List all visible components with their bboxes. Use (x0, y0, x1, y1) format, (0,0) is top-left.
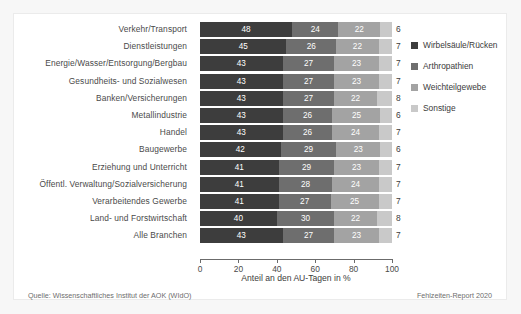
bar-segment: 41 (200, 177, 279, 192)
category-label: Baugewerbe (14, 142, 187, 157)
bar-segment: 45 (200, 39, 286, 54)
legend-label: Wirbelsäule/Rücken (423, 40, 497, 50)
bar-segment (379, 74, 392, 89)
segment-value-outside: 7 (396, 160, 401, 175)
segment-value-outside: 7 (396, 39, 401, 54)
segment-value-outside: 7 (396, 194, 401, 209)
segment-value-outside: 8 (396, 91, 401, 106)
bar-segment (379, 125, 392, 140)
legend-swatch-icon (411, 63, 418, 70)
bar-segment (380, 142, 392, 157)
bar-segment: 43 (200, 228, 283, 243)
bar-segment (379, 177, 392, 192)
footer-report: Fehlzeiten-Report 2020 (417, 291, 492, 300)
bar-segment (379, 56, 392, 71)
bar-segment: 22 (336, 39, 378, 54)
stacked-bar: 452622 (200, 39, 392, 54)
stacked-bar: 432722 (200, 91, 392, 106)
stacked-bar: 432723 (200, 228, 392, 243)
stacked-bar: 422923 (200, 142, 392, 157)
bar-segment: 27 (279, 194, 331, 209)
bar-segment: 43 (200, 108, 283, 123)
category-label: Verkehr/Transport (14, 22, 187, 37)
bar-segment: 22 (334, 91, 376, 106)
bar-segment: 22 (338, 22, 380, 37)
bar-segment: 23 (334, 74, 378, 89)
bar-segment (380, 22, 392, 37)
segment-value-outside: 6 (396, 22, 401, 37)
bar-row: Verarbeitendes Gewerbe4127257 (14, 194, 506, 209)
x-tick (277, 259, 278, 263)
legend-swatch-icon (411, 84, 418, 91)
bar-segment: 23 (334, 160, 378, 175)
bar-segment (379, 160, 392, 175)
x-tick (315, 259, 316, 263)
x-tick (392, 259, 393, 263)
bar-segment: 41 (200, 160, 279, 175)
x-axis-label: Anteil an den AU-Tagen in % (200, 273, 392, 283)
bar-row: Land- und Forstwirtschaft4030228 (14, 211, 506, 226)
bar-segment: 26 (286, 39, 336, 54)
bar-segment: 27 (283, 56, 335, 71)
bar-row: Erziehung und Unterricht4129237 (14, 160, 506, 175)
bar-segment (377, 211, 392, 226)
stacked-bar: 403022 (200, 211, 392, 226)
bar-segment (379, 228, 392, 243)
bar-row: Handel4326247 (14, 125, 506, 140)
segment-value-outside: 7 (396, 177, 401, 192)
legend-label: Sonstige (423, 103, 456, 113)
bar-segment: 26 (283, 108, 333, 123)
segment-value-outside: 6 (396, 142, 401, 157)
legend-label: Arthropathien (423, 61, 473, 71)
category-label: Energie/Wasser/Entsorgung/Bergbau (14, 56, 187, 71)
legend-label: Weichteilgewebe (423, 82, 486, 92)
bar-row: Öffentl. Verwaltung/Sozialversicherung41… (14, 177, 506, 192)
x-tick (200, 259, 201, 263)
category-label: Dienstleistungen (14, 39, 187, 54)
legend-item: Wirbelsäule/Rücken (411, 35, 497, 55)
legend-item: Weichteilgewebe (411, 77, 497, 97)
bar-segment: 26 (283, 125, 333, 140)
stacked-bar: 432624 (200, 125, 392, 140)
bar-segment: 43 (200, 56, 283, 71)
stacked-bar: 432723 (200, 74, 392, 89)
bar-segment (379, 194, 392, 209)
bar-row: Baugewerbe4229236 (14, 142, 506, 157)
bar-segment (379, 39, 392, 54)
x-tick (238, 259, 239, 263)
bar-segment: 25 (332, 108, 380, 123)
bar-segment: 40 (200, 211, 277, 226)
bar-segment: 24 (332, 125, 378, 140)
bar-segment: 23 (336, 142, 380, 157)
category-label: Gesundheits- und Sozialwesen (14, 74, 187, 89)
bar-segment: 29 (281, 142, 337, 157)
segment-value-outside: 8 (396, 211, 401, 226)
plot-area: Verkehr/Transport4824226Dienstleistungen… (14, 14, 506, 299)
legend-item: Arthropathien (411, 56, 497, 76)
segment-value-outside: 7 (396, 228, 401, 243)
legend-item: Sonstige (411, 98, 497, 118)
bar-segment: 43 (200, 125, 283, 140)
segment-value-outside: 7 (396, 125, 401, 140)
category-label: Handel (14, 125, 187, 140)
bar-segment: 41 (200, 194, 279, 209)
segment-value-outside: 6 (396, 108, 401, 123)
category-label: Metallindustrie (14, 108, 187, 123)
bar-segment: 43 (200, 91, 283, 106)
legend-swatch-icon (411, 42, 418, 49)
bar-segment: 22 (334, 211, 376, 226)
bar-segment: 48 (200, 22, 292, 37)
legend-swatch-icon (411, 105, 418, 112)
stacked-bar: 412824 (200, 177, 392, 192)
category-label: Alle Branchen (14, 228, 187, 243)
footer-source: Quelle: Wissenschaftliches Institut der … (28, 291, 191, 300)
legend: Wirbelsäule/RückenArthropathienWeichteil… (411, 35, 497, 119)
category-label: Land- und Forstwirtschaft (14, 211, 187, 226)
segment-value-outside: 7 (396, 56, 401, 71)
bar-segment: 30 (277, 211, 335, 226)
bar-segment: 24 (292, 22, 338, 37)
stacked-bar: 432723 (200, 56, 392, 71)
category-label: Verarbeitendes Gewerbe (14, 194, 187, 209)
bar-segment (377, 91, 392, 106)
stacked-bar: 412725 (200, 194, 392, 209)
